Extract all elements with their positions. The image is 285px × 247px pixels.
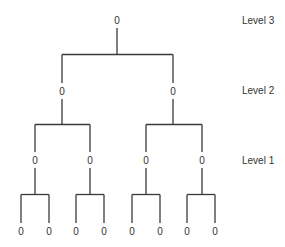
node-leaf: 0 <box>184 226 190 237</box>
level-label-2: Level 2 <box>242 85 275 96</box>
level-label-1: Level 1 <box>242 155 275 166</box>
node-leaf: 0 <box>101 226 107 237</box>
node-level-1: 0 <box>32 155 38 166</box>
node-level-1: 0 <box>199 155 205 166</box>
level-label-3: Level 3 <box>242 15 275 26</box>
tree-edges <box>21 28 215 223</box>
node-leaf: 0 <box>46 226 52 237</box>
node-leaf: 0 <box>129 226 135 237</box>
node-leaf: 0 <box>157 226 163 237</box>
node-level-1: 0 <box>87 155 93 166</box>
level-labels: Level 3 Level 2 Level 1 <box>242 15 275 166</box>
node-level-1: 0 <box>143 155 149 166</box>
node-level-3: 0 <box>114 15 120 26</box>
node-leaf: 0 <box>18 226 24 237</box>
node-level-2: 0 <box>59 86 65 97</box>
node-leaf: 0 <box>73 226 79 237</box>
node-level-2: 0 <box>170 86 176 97</box>
tree-diagram: 000000000000000 Level 3 Level 2 Level 1 <box>0 0 285 247</box>
node-leaf: 0 <box>212 226 218 237</box>
tree-nodes: 000000000000000 <box>18 15 218 237</box>
